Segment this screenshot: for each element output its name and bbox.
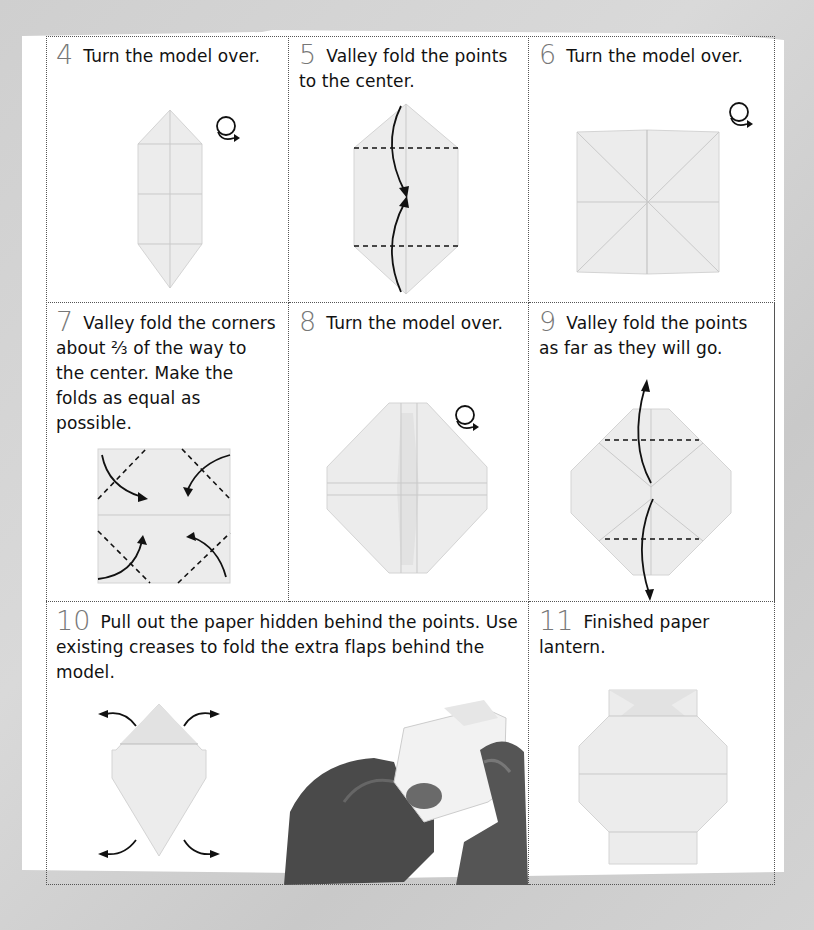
finished-lantern-diagram	[529, 602, 775, 885]
step-10-diagram	[46, 602, 286, 885]
turn-over-icon	[445, 401, 485, 441]
step-4-diagram	[46, 36, 289, 303]
step-10-panel: 10Pull out the paper hidden behind the p…	[46, 602, 529, 885]
step-9-panel: 9Valley fold the points as far as they w…	[529, 303, 775, 602]
step-6-diagram	[529, 36, 775, 303]
step-7-panel: 7Valley fold the corners about ⅔ of the …	[46, 303, 289, 602]
step-8-panel: 8Turn the model over.	[289, 303, 529, 602]
step-7-diagram	[46, 303, 289, 602]
turn-over-icon	[719, 98, 759, 138]
step-6-panel: 6Turn the model over.	[529, 36, 775, 303]
step-5-panel: 5Valley fold the points to the center.	[289, 36, 529, 303]
step-9-diagram	[529, 303, 775, 602]
step-8-diagram	[289, 303, 529, 602]
hands-folding-photo	[284, 692, 528, 885]
turn-over-icon	[206, 112, 246, 152]
step-11-panel: 11Finished paper lantern.	[529, 602, 775, 885]
step-4-panel: 4Turn the model over.	[46, 36, 289, 303]
step-5-diagram	[289, 36, 529, 303]
